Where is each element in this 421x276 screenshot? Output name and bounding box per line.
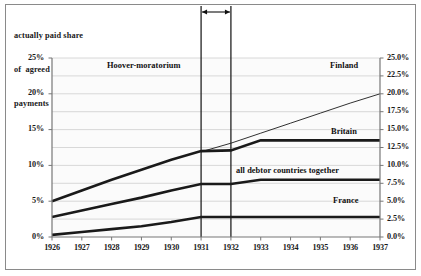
y-tick-label-left: 5% — [10, 196, 44, 205]
series-label-britain: Britain — [331, 127, 357, 136]
y-tick-label-left: 20% — [10, 88, 44, 97]
y-tick-label-right: 17.5% — [387, 106, 421, 115]
chart-title-line-1: actually paid share — [14, 30, 83, 41]
y-tick-label-right: 20.0% — [387, 88, 421, 97]
chart-figure: actually paid share of agreed debt payme… — [0, 0, 421, 276]
x-tick-label: 1937 — [363, 243, 397, 252]
y-tick-label-right: 2.5% — [387, 214, 421, 223]
y-tick-label-right: 22.5% — [387, 70, 421, 79]
y-tick-label-left: 10% — [10, 160, 44, 169]
plot-canvas — [52, 58, 380, 237]
y-tick-label-left: 0% — [10, 232, 44, 241]
y-tick-label-right: 5.0% — [387, 196, 421, 205]
y-tick-label-left: 25% — [10, 53, 44, 62]
y-tick-label-right: 10.0% — [387, 160, 421, 169]
series-label-all-debtor: all debtor countries together — [236, 166, 339, 175]
annotation-hoover-moratorium: Hoover-moratorium — [107, 61, 181, 70]
y-tick-label-right: 15.0% — [387, 124, 421, 133]
y-tick-label-right: 25.0% — [387, 53, 421, 62]
series-label-finland: Finland — [330, 61, 358, 70]
y-tick-label-right: 7.5% — [387, 178, 421, 187]
y-tick-label-right: 12.5% — [387, 142, 421, 151]
y-tick-label-right: 0.0% — [387, 232, 421, 241]
plot-area — [52, 58, 380, 237]
y-tick-label-left: 15% — [10, 124, 44, 133]
moratorium-arrow-head-right — [225, 9, 230, 14]
series-label-france: France — [333, 196, 358, 205]
moratorium-arrow-head-left — [202, 9, 207, 14]
